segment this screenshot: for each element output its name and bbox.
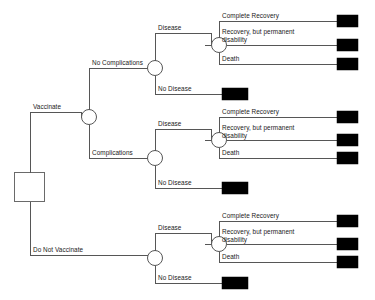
label-death-3: Death (222, 253, 239, 261)
terminal-disability-3[interactable] (337, 238, 358, 250)
label-recovery-disability-1: Recovery, but permanent disability (222, 28, 298, 43)
label-no-disease-1: No Disease (158, 85, 192, 93)
label-no-complications: No Complications (92, 59, 143, 67)
decision-tree-diagram: Vaccinate Do Not Vaccinate No Complicati… (0, 0, 375, 300)
label-complete-recovery-1: Complete Recovery (222, 12, 279, 20)
terminal-disability-2[interactable] (337, 134, 358, 146)
vaccinate-chance-node[interactable] (82, 110, 97, 125)
label-do-not-vaccinate: Do Not Vaccinate (33, 246, 83, 254)
terminal-no-disease-1[interactable] (222, 88, 248, 100)
label-complete-recovery-2: Complete Recovery (222, 108, 279, 116)
label-disease-1: Disease (158, 24, 181, 32)
terminal-no-disease-3[interactable] (222, 277, 248, 289)
label-complications: Complications (92, 149, 133, 157)
label-no-disease-3: No Disease (158, 274, 192, 282)
label-death-1: Death (222, 55, 239, 63)
do-not-vaccinate-chance-node[interactable] (148, 251, 163, 266)
label-recovery-disability-2: Recovery, but permanent disability (222, 124, 298, 139)
terminal-death-3[interactable] (337, 256, 358, 268)
tree-edges-and-nodes (0, 0, 375, 300)
label-complete-recovery-3: Complete Recovery (222, 212, 279, 220)
label-disease-3: Disease (158, 224, 181, 232)
label-recovery-disability-3: Recovery, but permanent disability (222, 228, 298, 243)
terminal-disability-1[interactable] (337, 39, 358, 51)
terminal-complete-recovery-3[interactable] (337, 215, 358, 227)
complications-chance-node[interactable] (148, 151, 163, 166)
label-disease-2: Disease (158, 120, 181, 128)
no-complications-chance-node[interactable] (148, 61, 163, 76)
terminal-complete-recovery-2[interactable] (337, 111, 358, 123)
terminal-death-2[interactable] (337, 152, 358, 164)
root-decision-node[interactable] (15, 173, 45, 202)
label-no-disease-2: No Disease (158, 179, 192, 187)
terminal-complete-recovery-1[interactable] (337, 15, 358, 27)
label-vaccinate: Vaccinate (33, 103, 61, 111)
terminal-no-disease-2[interactable] (222, 182, 248, 194)
terminal-death-1[interactable] (337, 58, 358, 70)
label-death-2: Death (222, 149, 239, 157)
